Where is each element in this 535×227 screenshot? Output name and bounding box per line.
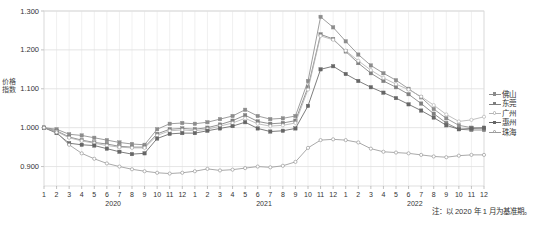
y-tick-label: 1.200 xyxy=(20,45,39,54)
data-point xyxy=(80,143,83,146)
data-point xyxy=(382,72,385,75)
legend-label: 珠海 xyxy=(501,128,516,137)
legend-marker-icon xyxy=(489,90,501,99)
data-point xyxy=(181,171,184,174)
x-tick-label: 6 xyxy=(105,191,109,198)
data-point xyxy=(168,172,171,175)
x-year-label: 2020 xyxy=(105,200,121,207)
data-point xyxy=(269,166,272,169)
data-point xyxy=(244,117,247,120)
data-point xyxy=(105,138,108,141)
data-point xyxy=(344,49,347,52)
data-point xyxy=(218,169,221,172)
data-point xyxy=(344,40,347,43)
data-point xyxy=(281,129,284,132)
x-tick-label: 11 xyxy=(468,191,475,198)
x-tick-label: 1 xyxy=(193,191,197,198)
data-point xyxy=(231,168,234,171)
data-point xyxy=(155,137,158,140)
data-point xyxy=(93,144,96,147)
data-point xyxy=(118,165,121,168)
y-tick-label: 1.100 xyxy=(20,84,39,93)
data-point xyxy=(319,34,322,37)
data-point xyxy=(407,88,410,91)
x-tick-label: 3 xyxy=(369,191,373,198)
data-point xyxy=(432,107,435,110)
data-point xyxy=(206,167,209,170)
data-point xyxy=(80,134,83,137)
legend-item-佛山[interactable]: 佛山 xyxy=(489,90,516,99)
data-point xyxy=(382,150,385,153)
x-tick-label: 7 xyxy=(117,191,121,198)
legend-item-惠州[interactable]: 惠州 xyxy=(489,118,516,127)
legend-item-广州[interactable]: 广州 xyxy=(489,109,516,118)
data-point xyxy=(68,136,71,139)
legend-marker-icon xyxy=(489,109,501,118)
data-point xyxy=(80,139,83,142)
legend-item-珠海[interactable]: 珠海 xyxy=(489,128,516,137)
plot-area xyxy=(44,11,484,186)
data-point xyxy=(193,122,196,125)
data-point xyxy=(319,139,322,142)
x-tick-label: 6 xyxy=(256,191,260,198)
data-point xyxy=(156,171,159,174)
x-tick-label: 5 xyxy=(394,191,398,198)
data-point xyxy=(319,15,322,18)
x-tick-label: 6 xyxy=(407,191,411,198)
data-point xyxy=(168,122,171,125)
data-point xyxy=(407,152,410,155)
data-point xyxy=(256,122,259,125)
data-point xyxy=(394,96,397,99)
x-tick-label: 8 xyxy=(130,191,134,198)
data-point xyxy=(155,128,158,131)
data-point xyxy=(281,164,284,167)
data-point xyxy=(419,102,422,105)
data-point xyxy=(130,168,133,171)
x-tick-label: 10 xyxy=(455,191,463,198)
x-tick-label: 2 xyxy=(356,191,360,198)
data-point xyxy=(181,128,184,131)
data-point xyxy=(357,141,360,144)
data-point xyxy=(118,146,121,149)
data-point xyxy=(181,121,184,124)
data-point xyxy=(118,141,121,144)
data-point xyxy=(281,124,284,127)
x-tick-label: 1 xyxy=(42,191,46,198)
x-tick-label: 7 xyxy=(419,191,423,198)
data-point xyxy=(445,117,448,120)
x-tick-label: 8 xyxy=(432,191,436,198)
data-point xyxy=(156,134,159,137)
data-point xyxy=(105,162,108,165)
data-point xyxy=(432,116,435,119)
data-point xyxy=(319,68,322,71)
data-point xyxy=(168,132,171,135)
x-tick-label: 4 xyxy=(80,191,84,198)
data-point xyxy=(432,104,435,107)
legend-label: 佛山 xyxy=(501,90,516,99)
data-point xyxy=(457,154,460,157)
x-tick-label: 10 xyxy=(304,191,312,198)
data-point xyxy=(457,120,460,123)
data-point xyxy=(206,129,209,132)
chart-legend: 佛山东莞广州惠州珠海 xyxy=(489,90,516,137)
data-point xyxy=(382,76,385,79)
data-point xyxy=(306,88,309,91)
data-point xyxy=(269,117,272,120)
x-tick-label: 12 xyxy=(480,191,488,198)
legend-item-东莞[interactable]: 东莞 xyxy=(489,99,516,108)
data-point xyxy=(256,165,259,168)
data-point xyxy=(218,127,221,130)
data-point xyxy=(470,118,473,121)
data-point xyxy=(105,147,108,150)
data-point xyxy=(457,124,460,127)
x-tick-label: 2 xyxy=(205,191,209,198)
data-point xyxy=(394,151,397,154)
x-tick-label: 3 xyxy=(67,191,71,198)
x-tick-label: 4 xyxy=(381,191,385,198)
data-point xyxy=(482,126,485,129)
legend-marker-icon xyxy=(489,128,501,137)
data-point xyxy=(256,114,259,117)
data-point xyxy=(306,104,309,107)
x-tick-label: 5 xyxy=(243,191,247,198)
data-point xyxy=(470,153,473,156)
